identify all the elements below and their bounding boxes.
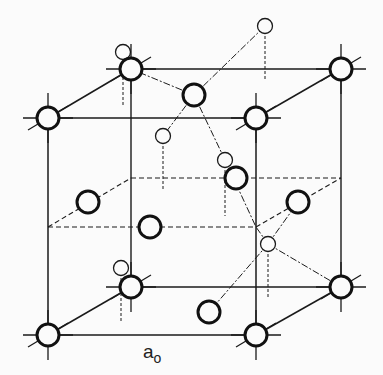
atom-corner	[37, 107, 59, 129]
atom-face-center	[183, 84, 205, 106]
atom-corner	[330, 276, 352, 298]
atom-corner	[245, 107, 267, 129]
atom-face-center	[198, 301, 220, 323]
interior-atoms	[114, 129, 276, 276]
atom-face-center	[77, 191, 99, 213]
atom-face-center	[225, 167, 247, 189]
crystal-structure-diagram	[0, 0, 383, 375]
outside-atoms	[116, 19, 273, 60]
lattice-constant-label: ao	[143, 341, 161, 366]
atom-corner	[120, 276, 142, 298]
atom-interior	[114, 261, 129, 276]
atom-interior	[156, 129, 171, 144]
atom-face-center	[139, 216, 161, 238]
atom-interior	[218, 153, 233, 168]
atom-corner	[37, 324, 59, 346]
atom-corner	[245, 324, 267, 346]
atom-corner	[120, 58, 142, 80]
atom-interior	[261, 237, 276, 252]
lattice-constant-symbol: a	[143, 341, 154, 362]
atom-face-center	[287, 191, 309, 213]
atom-corner	[330, 58, 352, 80]
lattice-constant-subscript: o	[154, 350, 162, 366]
atom-small	[258, 19, 273, 34]
